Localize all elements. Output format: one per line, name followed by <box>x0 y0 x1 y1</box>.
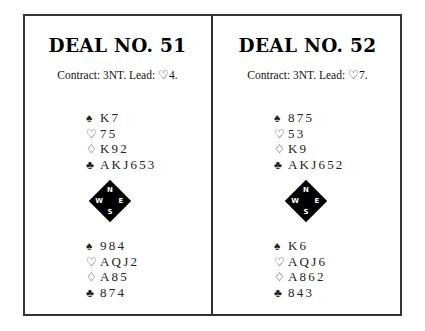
diamond-icon: ♢ <box>86 142 100 158</box>
spades-holding: ♠875 <box>274 110 345 126</box>
clubs-holding: ♣AKJ652 <box>274 157 345 173</box>
south-hand: ♠984 ♡AQJ2 ♢A85 ♣874 <box>86 238 139 300</box>
diamonds-holding: ♢K9 <box>274 141 345 157</box>
spade-icon: ♠ <box>274 111 288 127</box>
diamond-cards: K9 <box>288 141 308 156</box>
club-cards: 843 <box>288 285 314 300</box>
heart-icon: ♡ <box>86 127 100 143</box>
heart-icon: ♡ <box>274 127 288 143</box>
clubs-holding: ♣843 <box>274 285 327 301</box>
compass-icon: N W E S <box>89 180 131 222</box>
south-hand: ♠K6 ♡AQJ6 ♢A862 ♣843 <box>274 238 327 300</box>
spade-icon: ♠ <box>274 239 288 255</box>
compass-icon: N W E S <box>285 180 327 222</box>
diamond-cards: K92 <box>100 141 129 156</box>
clubs-holding: ♣AKJ653 <box>86 157 157 173</box>
north-hand: ♠875 ♡53 ♢K9 ♣AKJ652 <box>274 110 345 172</box>
deal-title: DEAL NO. 51 <box>23 35 212 56</box>
compass-east-label: E <box>312 197 322 205</box>
spade-cards: 875 <box>288 110 314 125</box>
club-icon: ♣ <box>86 286 100 302</box>
diamond-icon: ♢ <box>274 270 288 286</box>
spade-cards: K7 <box>100 110 120 125</box>
diamond-cards: A85 <box>100 269 129 284</box>
spade-icon: ♠ <box>86 111 100 127</box>
hearts-holding: ♡AQJ6 <box>274 254 327 270</box>
spade-icon: ♠ <box>86 239 100 255</box>
diamonds-holding: ♢K92 <box>86 141 157 157</box>
hearts-holding: ♡75 <box>86 126 157 142</box>
spade-cards: 984 <box>100 238 126 253</box>
contract-line: Contract: 3NT. Lead: ♡4. <box>23 68 212 82</box>
spades-holding: ♠K6 <box>274 238 327 254</box>
club-icon: ♣ <box>274 158 288 174</box>
club-icon: ♣ <box>86 158 100 174</box>
diamonds-holding: ♢A862 <box>274 269 327 285</box>
diamond-icon: ♢ <box>274 142 288 158</box>
compass-south-label: S <box>301 208 311 216</box>
compass-north-label: N <box>105 186 115 194</box>
compass-south-label: S <box>105 208 115 216</box>
heart-icon: ♡ <box>274 255 288 271</box>
spades-holding: ♠K7 <box>86 110 157 126</box>
club-icon: ♣ <box>274 286 288 302</box>
compass-west-label: W <box>94 197 104 205</box>
compass-east-label: E <box>116 197 126 205</box>
heart-cards: 53 <box>288 126 305 141</box>
heart-icon: ♡ <box>86 255 100 271</box>
compass-north-label: N <box>301 186 311 194</box>
diamond-cards: A862 <box>288 269 326 284</box>
contract-line: Contract: 3NT. Lead: ♡7. <box>213 68 402 82</box>
club-cards: AKJ652 <box>288 157 345 172</box>
deal-title: DEAL NO. 52 <box>213 35 402 56</box>
spades-holding: ♠984 <box>86 238 139 254</box>
compass-west-label: W <box>290 197 300 205</box>
heart-cards: AQJ2 <box>100 254 139 269</box>
clubs-holding: ♣874 <box>86 285 139 301</box>
hearts-holding: ♡53 <box>274 126 345 142</box>
deal-panel-52: DEAL NO. 52 Contract: 3NT. Lead: ♡7. ♠87… <box>213 14 402 316</box>
north-hand: ♠K7 ♡75 ♢K92 ♣AKJ653 <box>86 110 157 172</box>
hearts-holding: ♡AQJ2 <box>86 254 139 270</box>
spade-cards: K6 <box>288 238 308 253</box>
heart-cards: AQJ6 <box>288 254 327 269</box>
heart-cards: 75 <box>100 126 117 141</box>
deal-panel-51: DEAL NO. 51 Contract: 3NT. Lead: ♡4. ♠K7… <box>23 14 212 316</box>
diamonds-holding: ♢A85 <box>86 269 139 285</box>
diamond-icon: ♢ <box>86 270 100 286</box>
club-cards: AKJ653 <box>100 157 157 172</box>
club-cards: 874 <box>100 285 126 300</box>
